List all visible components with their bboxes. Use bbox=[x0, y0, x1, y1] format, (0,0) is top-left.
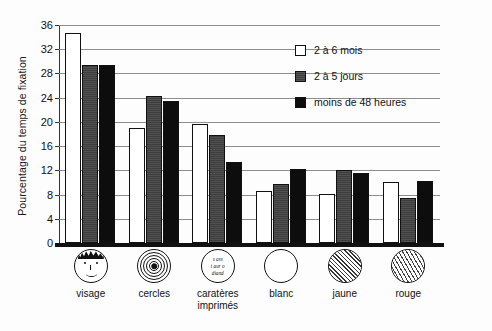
bar-group bbox=[129, 25, 180, 243]
printed-characters-icon: s asst aur odiand bbox=[201, 249, 235, 283]
y-tick-mark bbox=[55, 219, 59, 220]
x-category-label: cercles bbox=[122, 288, 186, 300]
y-tick-label: 32 bbox=[29, 43, 53, 55]
bar bbox=[226, 162, 242, 243]
y-tick-mark bbox=[55, 49, 59, 50]
bar bbox=[256, 191, 272, 243]
y-tick-label: 20 bbox=[29, 116, 53, 128]
face-icon bbox=[74, 249, 108, 283]
x-category-label: caratères bbox=[186, 288, 250, 300]
y-axis-title: Pourcentage du temps de fixation bbox=[16, 36, 34, 236]
bar bbox=[209, 135, 225, 243]
x-category-label: imprimés bbox=[186, 300, 250, 312]
x-category: visage bbox=[59, 249, 123, 300]
bar bbox=[163, 101, 179, 243]
bar bbox=[400, 198, 416, 243]
y-tick-mark bbox=[55, 146, 59, 147]
bar-chart-figure: Pourcentage du temps de fixation 0481216… bbox=[0, 0, 492, 331]
y-tick-label: 16 bbox=[29, 140, 53, 152]
x-axis-baseline bbox=[55, 243, 444, 247]
y-tick-label: 4 bbox=[29, 213, 53, 225]
legend-label: 2 à 6 mois bbox=[314, 44, 362, 56]
yellow-hatched-circle-icon bbox=[328, 249, 362, 283]
y-tick-label: 24 bbox=[29, 92, 53, 104]
bar bbox=[353, 173, 369, 243]
bar-group bbox=[192, 25, 243, 243]
y-tick-label: 12 bbox=[29, 164, 53, 176]
bar bbox=[336, 170, 352, 243]
legend-swatch bbox=[295, 97, 306, 108]
x-category-label: jaune bbox=[313, 288, 377, 300]
x-category-label: visage bbox=[59, 288, 123, 300]
bar bbox=[99, 65, 115, 243]
x-category-label: blanc bbox=[249, 288, 313, 300]
bar bbox=[192, 124, 208, 243]
y-tick-label: 8 bbox=[29, 189, 53, 201]
bar bbox=[290, 169, 306, 243]
legend: 2 à 6 mois2 à 5 joursmoins de 48 heures bbox=[295, 40, 445, 118]
legend-label: 2 à 5 jours bbox=[314, 70, 363, 82]
legend-item[interactable]: 2 à 5 jours bbox=[295, 66, 445, 86]
legend-swatch bbox=[295, 71, 306, 82]
bar bbox=[129, 128, 145, 243]
bar bbox=[146, 96, 162, 243]
bar bbox=[319, 194, 335, 243]
y-tick-mark bbox=[55, 170, 59, 171]
x-category: cercles bbox=[122, 249, 186, 300]
legend-swatch bbox=[295, 45, 306, 56]
x-category: jaune bbox=[313, 249, 377, 300]
legend-item[interactable]: 2 à 6 mois bbox=[295, 40, 445, 60]
y-tick-mark bbox=[55, 122, 59, 123]
x-category-label: rouge bbox=[376, 288, 440, 300]
bar bbox=[273, 184, 289, 243]
y-tick-label: 28 bbox=[29, 67, 53, 79]
y-tick-mark bbox=[55, 195, 59, 196]
white-circle-icon bbox=[264, 249, 298, 283]
bar bbox=[383, 182, 399, 243]
bar-group bbox=[65, 25, 116, 243]
y-tick-mark bbox=[55, 98, 59, 99]
x-category: s asst aur odiandcaratèresimprimés bbox=[186, 249, 250, 311]
red-zigzag-circle-icon bbox=[391, 249, 425, 283]
y-tick-mark bbox=[55, 25, 59, 26]
concentric-circles-icon bbox=[137, 249, 171, 283]
y-tick-label: 0 bbox=[29, 237, 53, 249]
x-axis-categories: visagecercless asst aur odiandcaratèresi… bbox=[55, 249, 444, 329]
legend-item[interactable]: moins de 48 heures bbox=[295, 92, 445, 112]
bar bbox=[82, 65, 98, 243]
y-tick-mark bbox=[55, 73, 59, 74]
x-category: blanc bbox=[249, 249, 313, 300]
legend-label: moins de 48 heures bbox=[314, 96, 406, 108]
x-category: rouge bbox=[376, 249, 440, 300]
bar bbox=[65, 33, 81, 243]
y-tick-label: 36 bbox=[29, 19, 53, 31]
bar bbox=[417, 181, 433, 243]
